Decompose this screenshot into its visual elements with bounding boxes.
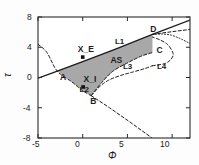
y-axis-title: τ <box>3 73 13 77</box>
marker-x-e <box>81 55 85 59</box>
annotation-l2: L2 <box>80 86 89 94</box>
xtick-label-5: 5 <box>119 140 124 149</box>
xtick-label-neg5: -5 <box>32 140 40 149</box>
annotation-l1: L1 <box>115 38 124 46</box>
annotation-l3: L3 <box>123 63 132 71</box>
x-axis-title: Φ <box>108 151 116 161</box>
ytick-label-neg8: -8 <box>23 134 31 143</box>
xtick-label-10: 10 <box>160 140 169 149</box>
ytick-label-8: 8 <box>27 13 32 22</box>
annotation-x-e: X_E <box>78 45 94 54</box>
annotation-a: A <box>60 73 66 82</box>
annotation-d: D <box>150 25 156 34</box>
annotation-x-i: X_I <box>84 75 97 84</box>
xtick-label-0: 0 <box>75 140 80 149</box>
annotation-c: C <box>157 46 163 55</box>
annotation-as: AS <box>110 56 122 65</box>
ytick-label-neg4: -4 <box>23 104 31 113</box>
phase-diagram-figure: 8 4 0 -4 -8 -5 0 5 10 τ Φ L1L2L3L4ASABCD… <box>0 0 199 165</box>
annotation-l4: L4 <box>157 63 166 71</box>
ytick-label-0: 0 <box>27 73 32 82</box>
ytick-label-4: 4 <box>27 43 32 52</box>
annotation-b: B <box>90 97 96 106</box>
